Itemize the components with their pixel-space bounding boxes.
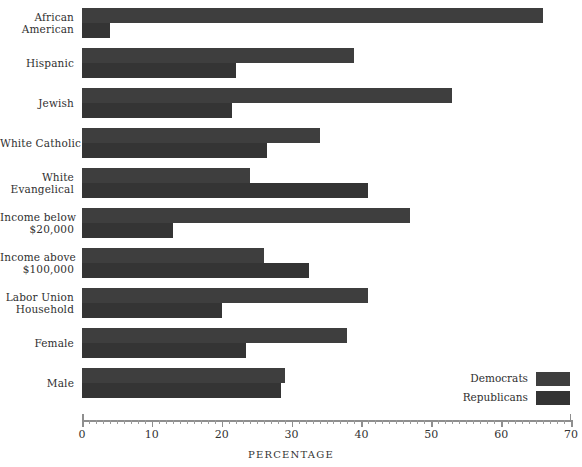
- axis-tick-label: 10: [145, 428, 159, 441]
- axis-tick-minor: [187, 420, 188, 424]
- axis-tick-label: 50: [424, 428, 438, 441]
- axis-tick-minor: [327, 420, 328, 424]
- axis-tick-minor: [138, 420, 139, 424]
- category-label-hispanic: Hispanic: [0, 57, 74, 70]
- axis-tick-minor: [543, 420, 544, 424]
- bar-republicans-income-above-100-000: [82, 263, 309, 278]
- bar-group: [82, 328, 571, 358]
- axis-tick-major: [431, 420, 433, 427]
- axis-tick-minor: [466, 420, 467, 424]
- axis-tick-minor: [452, 420, 453, 424]
- bar-group: [82, 88, 571, 118]
- category-label-african-american: AfricanAmerican: [0, 11, 74, 36]
- axis-tick-minor: [166, 420, 167, 424]
- axis-tick-minor: [333, 420, 334, 424]
- axis-tick-minor: [536, 420, 537, 424]
- axis-tick-minor: [522, 420, 523, 424]
- bar-group: [82, 288, 571, 318]
- bar-democrats-white-evangelical: [82, 168, 250, 183]
- axis-tick-minor: [278, 420, 279, 424]
- axis-tick-minor: [515, 420, 516, 424]
- axis-tick-minor: [243, 420, 244, 424]
- bar-republicans-white-catholic: [82, 143, 267, 158]
- axis-tick-major: [361, 420, 363, 427]
- axis-tick-minor: [389, 420, 390, 424]
- axis-tick-major: [82, 420, 84, 427]
- axis-tick-minor: [459, 420, 460, 424]
- axis-tick-minor: [368, 420, 369, 424]
- axis-tick-minor: [508, 420, 509, 424]
- axis-tick-label: 30: [285, 428, 299, 441]
- axis-tick-minor: [494, 420, 495, 424]
- bar-republicans-male: [82, 383, 281, 398]
- axis-tick-minor: [264, 420, 265, 424]
- axis-tick-minor: [110, 420, 111, 424]
- axis-tick-minor: [340, 420, 341, 424]
- axis-tick-minor: [103, 420, 104, 424]
- legend-swatch: [536, 372, 570, 386]
- legend-label: Republicans: [463, 391, 528, 403]
- axis-tick-minor: [194, 420, 195, 424]
- bar-republicans-income-below-20-000: [82, 223, 173, 238]
- axis-tick-label: 20: [215, 428, 229, 441]
- bar-democrats-labor-union-household: [82, 288, 368, 303]
- axis-tick-minor: [487, 420, 488, 424]
- bar-republicans-labor-union-household: [82, 303, 222, 318]
- axis-tick-minor: [306, 420, 307, 424]
- axis-tick-minor: [375, 420, 376, 424]
- bar-democrats-jewish: [82, 88, 452, 103]
- axis-tick-minor: [480, 420, 481, 424]
- bar-group: [82, 8, 571, 38]
- axis-tick-minor: [299, 420, 300, 424]
- axis-tick-minor: [410, 420, 411, 424]
- bar-republicans-hispanic: [82, 63, 236, 78]
- axis-tick-minor: [417, 420, 418, 424]
- category-label-white-catholic: White Catholic: [0, 137, 74, 150]
- bar-group: [82, 168, 571, 198]
- legend-item: Republicans: [418, 390, 570, 407]
- axis-tick-label: 70: [564, 428, 578, 441]
- axis-tick-minor: [236, 420, 237, 424]
- category-label-white-evangelical: WhiteEvangelical: [0, 171, 74, 196]
- bar-democrats-african-american: [82, 8, 543, 23]
- bar-group: [82, 128, 571, 158]
- bar-democrats-income-above-100-000: [82, 248, 264, 263]
- axis-tick-label: 0: [79, 428, 86, 441]
- bar-group: [82, 248, 571, 278]
- axis-tick-major: [222, 420, 224, 427]
- axis-tick-minor: [96, 420, 97, 424]
- axis-tick-minor: [215, 420, 216, 424]
- category-label-female: Female: [0, 337, 74, 350]
- category-label-male: Male: [0, 377, 74, 390]
- bar-republicans-female: [82, 343, 246, 358]
- axis-tick-minor: [201, 420, 202, 424]
- bar-democrats-hispanic: [82, 48, 354, 63]
- axis-tick-minor: [396, 420, 397, 424]
- axis-tick-label: 60: [494, 428, 508, 441]
- axis-tick-minor: [557, 420, 558, 424]
- bar-republicans-african-american: [82, 23, 110, 38]
- axis-tick-minor: [382, 420, 383, 424]
- bar-group: [82, 208, 571, 238]
- axis-tick-minor: [117, 420, 118, 424]
- bar-democrats-male: [82, 368, 285, 383]
- axis-tick-minor: [550, 420, 551, 424]
- legend-swatch: [536, 391, 570, 405]
- axis-tick-minor: [424, 420, 425, 424]
- axis-tick-major: [152, 420, 154, 427]
- axis-tick-minor: [529, 420, 530, 424]
- axis-tick-minor: [320, 420, 321, 424]
- bar-democrats-female: [82, 328, 347, 343]
- bar-republicans-jewish: [82, 103, 232, 118]
- category-axis-labels: AfricanAmericanHispanicJewishWhite Catho…: [0, 0, 74, 420]
- axis-tick-major: [292, 420, 294, 427]
- axis-tick-minor: [173, 420, 174, 424]
- plot-area: [82, 0, 571, 420]
- axis-tick-minor: [313, 420, 314, 424]
- axis-tick-minor: [564, 420, 565, 424]
- axis-tick-minor: [180, 420, 181, 424]
- category-label-labor-union-household: Labor UnionHousehold: [0, 291, 74, 316]
- legend-item: Democrats: [418, 371, 570, 388]
- axis-tick-minor: [285, 420, 286, 424]
- axis-tick-minor: [124, 420, 125, 424]
